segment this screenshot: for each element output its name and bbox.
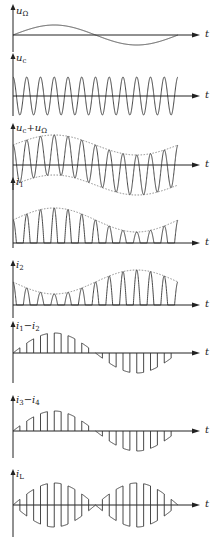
y-axis-arrow-icon <box>11 469 16 475</box>
x-axis-arrow-icon <box>192 33 200 38</box>
y-axis-arrow-icon <box>11 123 16 129</box>
time-axis-label: t <box>205 425 209 435</box>
time-axis-label: t <box>205 90 209 100</box>
y-axis-arrow-icon <box>11 395 16 401</box>
modulator-waveform-figure: uΩtuctuc+uΩti1ti2ti1−i2ti3−i4tiLt <box>0 0 216 547</box>
x-axis-arrow-icon <box>192 429 200 434</box>
time-axis-label: t <box>205 299 209 309</box>
y-axis-arrow-icon <box>11 4 16 10</box>
time-axis-label: t <box>205 237 209 247</box>
y-axis-arrow-icon <box>11 177 16 183</box>
x-axis-arrow-icon <box>192 163 200 168</box>
y-axis-arrow-icon <box>11 321 16 327</box>
waveform-plot-area <box>0 0 216 547</box>
y-axis-arrow-icon <box>11 260 16 266</box>
x-axis-arrow-icon <box>192 241 200 246</box>
panel-label-i_L: iL <box>16 469 24 481</box>
x-axis-arrow-icon <box>192 503 200 508</box>
panel-label-u_c_plus_u_omega: uc+uΩ <box>16 123 47 135</box>
x-axis-arrow-icon <box>192 351 200 356</box>
time-axis-label: t <box>205 499 209 509</box>
panel-label-i_1_minus_i_2: i1−i2 <box>16 321 40 333</box>
lower-envelope <box>13 175 178 195</box>
x-axis-arrow-icon <box>192 303 200 308</box>
panel-label-i_1: i1 <box>16 177 24 189</box>
panel-label-i_2: i2 <box>16 260 24 272</box>
panel-label-u_omega: uΩ <box>16 6 28 18</box>
time-axis-label: t <box>205 159 209 169</box>
panel-label-u_c: uc <box>16 53 26 65</box>
half-wave-current-trace <box>13 270 178 305</box>
panel-label-i_3_minus_i_4: i3−i4 <box>16 395 40 407</box>
half-wave-current-trace <box>13 208 178 243</box>
time-axis-label: t <box>205 347 209 357</box>
y-axis-arrow-icon <box>11 53 16 59</box>
x-axis-arrow-icon <box>192 94 200 99</box>
time-axis-label: t <box>205 29 209 39</box>
